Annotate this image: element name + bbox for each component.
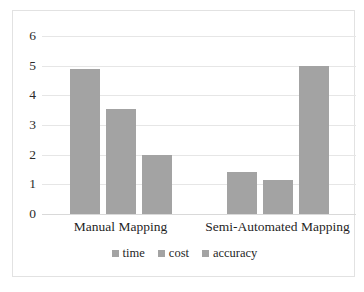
y-axis-tick-label: 0 (29, 207, 36, 221)
y-axis-tick-label: 2 (29, 148, 36, 162)
legend-swatch-icon (112, 250, 119, 257)
legend-label: accuracy (213, 247, 257, 260)
legend-item[interactable]: time (112, 247, 145, 260)
bars-layer (42, 36, 356, 214)
bar (299, 66, 329, 214)
bar (142, 155, 172, 214)
bar (263, 180, 293, 214)
gridline (42, 214, 356, 215)
chart-legend: timecostaccuracy (13, 247, 356, 260)
y-axis-tick-label: 6 (29, 29, 36, 43)
y-axis-tick-label: 5 (29, 59, 36, 73)
bar (106, 109, 136, 214)
chart-frame: 0123456 Manual MappingSemi-Automated Map… (12, 10, 355, 277)
x-axis-category-label: Semi-Automated Mapping (205, 219, 349, 235)
legend-swatch-icon (202, 250, 209, 257)
x-axis-category-label: Manual Mapping (74, 219, 167, 235)
y-axis-tick-labels: 0123456 (13, 36, 40, 214)
bar (227, 172, 257, 214)
legend-item[interactable]: cost (158, 247, 189, 260)
legend-label: cost (169, 247, 189, 260)
plot-area (42, 36, 356, 214)
legend-item[interactable]: accuracy (202, 247, 257, 260)
y-axis-tick-label: 4 (29, 89, 36, 103)
y-axis-tick-label: 3 (29, 118, 36, 132)
y-axis-tick-label: 1 (29, 178, 36, 192)
x-axis-category-labels: Manual MappingSemi-Automated Mapping (42, 219, 356, 241)
bar (70, 69, 100, 214)
legend-swatch-icon (158, 250, 165, 257)
legend-label: time (123, 247, 145, 260)
bar-chart: 0123456 Manual MappingSemi-Automated Map… (0, 0, 364, 292)
